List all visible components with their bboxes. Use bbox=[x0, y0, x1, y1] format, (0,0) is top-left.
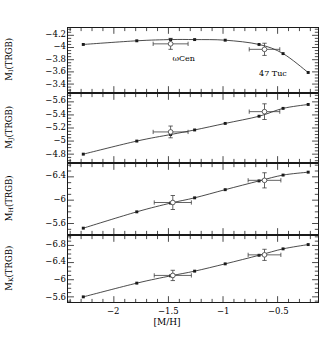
y-tick-label: −5.6 bbox=[32, 96, 66, 105]
y-tick-label: −5.6 bbox=[32, 293, 66, 302]
y-tick-label: −5.4 bbox=[32, 110, 66, 119]
panel-mj-plot-area bbox=[68, 94, 318, 162]
y-tick-label: −4.2 bbox=[32, 30, 66, 39]
y-tick-label: −3.8 bbox=[32, 55, 66, 64]
y-tick-label: −3.6 bbox=[32, 67, 66, 76]
y-tick-label: −5.2 bbox=[32, 123, 66, 132]
y-axis-tick-label-column: −4.2−4−3.8−3.6−3.4−5.6−5.4−5.2−5−4.8−6.4… bbox=[30, 0, 66, 338]
y-tick-label: −6.4 bbox=[32, 171, 66, 180]
panel-mh-plot-area bbox=[68, 164, 318, 234]
panel-mj-trgb bbox=[67, 93, 319, 163]
y-tick-label: −6.4 bbox=[32, 257, 66, 266]
panel-mh-trgb bbox=[67, 163, 319, 235]
y-axis-label: MJ(TRGB) bbox=[4, 97, 15, 157]
y-tick-label: −4 bbox=[32, 42, 66, 51]
x-tick-label: −0.5 bbox=[262, 306, 294, 316]
y-tick-label: −5.6 bbox=[32, 219, 66, 228]
cluster-annotation-47-tuc: 47 Tuc bbox=[259, 69, 287, 78]
y-tick-label: −3.4 bbox=[32, 80, 66, 89]
y-axis-label: MH(TRGB) bbox=[4, 168, 15, 228]
x-tick-label: −2 bbox=[97, 306, 129, 316]
cluster-annotation-omega-cen: ωCen bbox=[172, 54, 195, 63]
y-tick-label: −6 bbox=[32, 275, 66, 284]
y-axis-label: MK(TRGB) bbox=[4, 238, 15, 298]
panel-mk-plot-area bbox=[68, 236, 318, 302]
y-axis-label: MI(TRGB) bbox=[4, 29, 15, 89]
y-tick-label: −4.8 bbox=[32, 150, 66, 159]
y-tick-label: −6 bbox=[32, 195, 66, 204]
x-tick-label: −1 bbox=[207, 306, 239, 316]
y-tick-label: −6.8 bbox=[32, 240, 66, 249]
x-tick-label: −1.5 bbox=[152, 306, 184, 316]
panel-mk-trgb bbox=[67, 235, 319, 303]
x-axis-label: [M/H] bbox=[0, 317, 334, 327]
figure-trgb-magnitude-vs-metallicity: −4.2−4−3.8−3.6−3.4−5.6−5.4−5.2−5−4.8−6.4… bbox=[0, 0, 334, 338]
y-tick-label: −5 bbox=[32, 136, 66, 145]
